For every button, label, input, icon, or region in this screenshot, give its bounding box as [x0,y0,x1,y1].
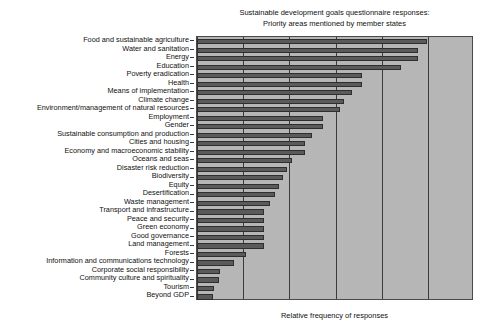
bar [197,48,418,53]
bar-row [197,80,474,89]
axis-tick [190,228,194,229]
x-axis-label: Relative frequency of responses [196,311,473,320]
bar [197,294,213,299]
axis-tick [190,125,194,126]
axis-tick [190,49,194,50]
bar-row [197,54,474,63]
axis-tick [190,287,194,288]
bar-row [197,267,474,276]
axis-tick [190,74,194,75]
bar [197,124,323,129]
axis-tick [190,270,194,271]
bar [197,226,264,231]
bar [197,133,312,138]
axis-tick [190,108,194,109]
bar [197,286,214,291]
bar-row [197,156,474,165]
bar-row [197,182,474,191]
axis-tick [190,219,194,220]
axis-tick [190,211,194,212]
bar-row [197,46,474,55]
bar [197,73,362,78]
bar [197,201,270,206]
bar-row [197,207,474,216]
axis-tick [190,159,194,160]
bar-row [197,292,474,301]
bar [197,209,264,214]
category-label: Beyond GDP [146,291,189,300]
bar [197,235,264,240]
bar [197,141,305,146]
bar-row [197,97,474,106]
bar [197,260,234,265]
bar [197,269,220,274]
axis-tick [190,262,194,263]
bar [197,116,323,121]
bar-row [197,105,474,114]
bar [197,175,283,180]
axis-tick [190,194,194,195]
axis-tick [190,236,194,237]
bar [197,90,352,95]
bar-row [197,37,474,46]
chart-subtitle: Priority areas mentioned by member state… [196,19,473,29]
bar-row [197,258,474,267]
bar-row [197,88,474,97]
axis-tick [190,142,194,143]
bar-row [197,122,474,131]
axis-tick [190,151,194,152]
axis-tick [190,185,194,186]
axis-tick [190,91,194,92]
bar-row [197,173,474,182]
bar-row [197,190,474,199]
axis-tick [190,57,194,58]
axis-tick [190,100,194,101]
axis-tick [190,134,194,135]
bar-row [197,284,474,293]
bar-row [197,63,474,72]
bar [197,192,275,197]
bar [197,184,279,189]
bar-row [197,241,474,250]
chart-root: Sustainable development goals questionna… [0,0,495,330]
axis-tick [190,253,194,254]
plot-area [196,36,473,300]
bar-row [197,233,474,242]
bar [197,252,246,257]
bar [197,150,305,155]
bar [197,99,344,104]
bar-series [197,37,472,299]
bar [197,277,219,282]
bar-row [197,199,474,208]
bar [197,243,264,248]
bar-row [197,165,474,174]
bar [197,167,287,172]
axis-tick [190,83,194,84]
axis-tick [190,245,194,246]
bar [197,39,427,44]
bar [197,56,418,61]
bar [197,218,264,223]
axis-tick [190,202,194,203]
axis-tick [190,177,194,178]
bar [197,82,362,87]
axis-tick [190,279,194,280]
bar [197,65,401,70]
bar-row [197,216,474,225]
bar-row [197,250,474,259]
bar [197,158,292,163]
category-axis-labels: Food and sustainable agricultureWater an… [0,36,189,300]
bar-row [197,114,474,123]
axis-tick [190,168,194,169]
chart-title: Sustainable development goals questionna… [196,8,473,18]
bar-row [197,148,474,157]
bar-row [197,139,474,148]
axis-tick [190,66,194,67]
bar-row [197,275,474,284]
axis-tick [190,296,194,297]
bar-row [197,71,474,80]
axis-tick [190,117,194,118]
axis-tick [190,40,194,41]
bar-row [197,224,474,233]
bar-row [197,131,474,140]
